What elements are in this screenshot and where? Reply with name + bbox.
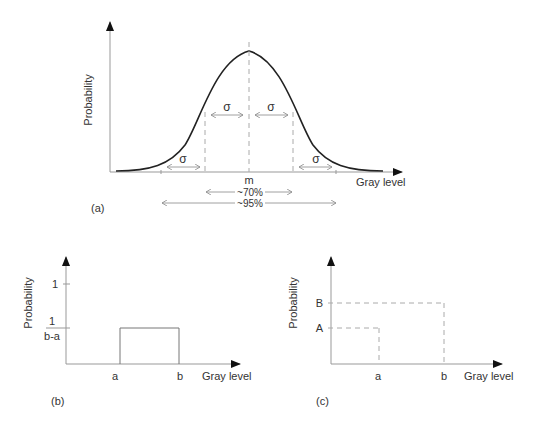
panel-c-impulse: B A a b Gray level Probability (c) <box>287 257 514 407</box>
ytick-frac-denominator: b-a <box>44 330 61 342</box>
range-70-label: ~70% <box>237 187 263 198</box>
sigma-label-outer-right: σ <box>312 152 320 166</box>
y-axis-label: Probability <box>287 277 299 329</box>
panel-a-gaussian: σ σ σ σ m Gray level Probability ~70% ~9… <box>82 22 406 214</box>
panel-b-uniform: 1 1 b-a a b Gray level Probability (b) <box>22 257 252 407</box>
xtick-a-label: a <box>375 370 382 382</box>
sigma-label-inner-left: σ <box>223 100 231 114</box>
xtick-b-label: b <box>441 370 447 382</box>
ytick-B-label: B <box>316 297 323 309</box>
x-axis-label: Gray level <box>202 370 252 382</box>
xtick-b-label: b <box>177 370 183 382</box>
xtick-a-label: a <box>112 370 119 382</box>
sigma-label-outer-left: σ <box>179 152 187 166</box>
range-95-label: ~95% <box>237 198 263 209</box>
y-axis-label: Probability <box>22 277 34 329</box>
ytick-1-label: 1 <box>52 278 58 290</box>
panel-b-tag: (b) <box>51 395 64 407</box>
ytick-frac-numerator: 1 <box>49 315 55 327</box>
y-axis-label: Probability <box>82 74 94 126</box>
mean-label: m <box>244 174 253 186</box>
x-axis-label: Gray level <box>464 370 514 382</box>
panel-c-tag: (c) <box>316 395 329 407</box>
ytick-A-label: A <box>316 322 324 334</box>
figure-canvas: σ σ σ σ m Gray level Probability ~70% ~9… <box>0 0 534 423</box>
uniform-box <box>120 328 179 364</box>
panel-a-tag: (a) <box>91 202 104 214</box>
sigma-label-inner-right: σ <box>267 100 275 114</box>
x-axis-label: Gray level <box>356 176 406 188</box>
